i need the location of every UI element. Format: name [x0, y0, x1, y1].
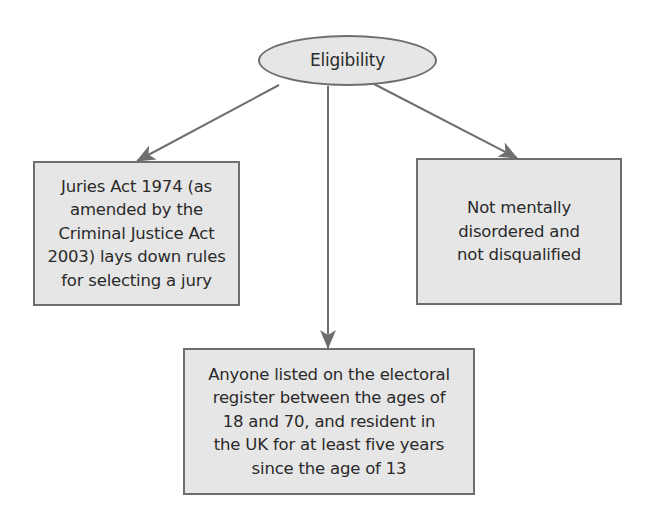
node-not-disqualified-label: Not mentally disordered and not disquali… [457, 196, 581, 267]
node-electoral-register-label: Anyone listed on the electoral register … [208, 363, 450, 481]
node-not-disqualified: Not mentally disordered and not disquali… [416, 158, 622, 305]
node-juries-act: Juries Act 1974 (as amended by the Crimi… [33, 161, 240, 306]
arrow-root-to-left [137, 85, 279, 161]
root-node-eligibility: Eligibility [258, 35, 437, 86]
node-electoral-register: Anyone listed on the electoral register … [183, 348, 475, 495]
eligibility-diagram: Eligibility Juries Act 1974 (as amended … [0, 0, 656, 531]
root-node-label: Eligibility [310, 49, 385, 73]
node-juries-act-label: Juries Act 1974 (as amended by the Crimi… [47, 175, 225, 293]
arrow-root-to-right [374, 84, 517, 158]
